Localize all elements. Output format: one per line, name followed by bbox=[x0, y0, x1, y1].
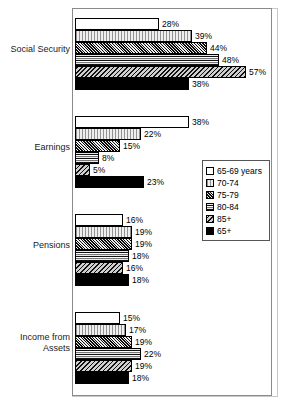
bar-value-1-2: 15% bbox=[123, 141, 140, 151]
bar-value-1-4: 5% bbox=[93, 165, 105, 175]
bar-0-4 bbox=[75, 66, 246, 78]
bar-value-2-0: 16% bbox=[126, 215, 143, 225]
bar-2-2 bbox=[75, 238, 132, 250]
legend-item-80-84: 80-84 bbox=[206, 201, 266, 212]
bar-1-0 bbox=[75, 116, 189, 128]
legend-label-4: 85+ bbox=[217, 214, 231, 224]
bar-1-5 bbox=[75, 176, 144, 188]
bar-value-2-5: 18% bbox=[132, 275, 149, 285]
legend-label-2: 75-79 bbox=[217, 190, 239, 200]
bar-1-1 bbox=[75, 128, 141, 140]
legend-swatch-icon-4 bbox=[206, 215, 214, 223]
bar-0-1 bbox=[75, 30, 192, 42]
bar-1-3 bbox=[75, 152, 99, 164]
bar-0-5 bbox=[75, 78, 189, 90]
bar-value-1-1: 22% bbox=[144, 129, 161, 139]
bar-1-4 bbox=[75, 164, 90, 176]
legend-swatch-icon-5 bbox=[206, 227, 214, 235]
bar-value-2-3: 18% bbox=[132, 251, 149, 261]
legend-label-0: 65-69 years bbox=[217, 166, 262, 176]
legend-swatch-icon-1 bbox=[206, 179, 214, 187]
bar-value-1-0: 38% bbox=[192, 117, 209, 127]
bar-value-0-4: 57% bbox=[249, 67, 266, 77]
bar-value-3-2: 19% bbox=[135, 337, 152, 347]
bar-value-2-2: 19% bbox=[135, 239, 152, 249]
bar-1-2 bbox=[75, 140, 120, 152]
bar-2-0 bbox=[75, 214, 123, 226]
bar-value-3-0: 15% bbox=[123, 313, 140, 323]
bar-3-4 bbox=[75, 360, 132, 372]
bar-0-2 bbox=[75, 42, 207, 54]
bar-0-0 bbox=[75, 18, 159, 30]
bar-value-3-1: 17% bbox=[129, 325, 146, 335]
bar-value-3-5: 18% bbox=[132, 373, 149, 383]
category-label-0: Social Security bbox=[0, 44, 70, 55]
legend-swatch-icon-2 bbox=[206, 191, 214, 199]
bar-3-5 bbox=[75, 372, 129, 384]
legend-item-85-plus: 85+ bbox=[206, 213, 266, 224]
legend-label-5: 65+ bbox=[217, 226, 231, 236]
bar-value-0-5: 38% bbox=[192, 79, 209, 89]
bar-2-4 bbox=[75, 262, 123, 274]
bar-3-2 bbox=[75, 336, 132, 348]
chart-legend: 65-69 years 70-74 75-79 80-84 85+ 65+ bbox=[202, 160, 270, 241]
bar-2-5 bbox=[75, 274, 129, 286]
bar-2-3 bbox=[75, 250, 129, 262]
bar-value-1-3: 8% bbox=[102, 153, 114, 163]
category-label-2: Pensions bbox=[0, 240, 70, 251]
legend-item-65-plus: 65+ bbox=[206, 225, 266, 236]
legend-item-65-69-years: 65-69 years bbox=[206, 165, 266, 176]
category-label-1: Earnings bbox=[0, 142, 70, 153]
legend-label-3: 80-84 bbox=[217, 202, 239, 212]
bar-3-0 bbox=[75, 312, 120, 324]
bar-value-2-4: 16% bbox=[126, 263, 143, 273]
bar-3-3 bbox=[75, 348, 141, 360]
bar-value-0-3: 48% bbox=[222, 55, 239, 65]
bar-0-3 bbox=[75, 54, 219, 66]
bar-2-1 bbox=[75, 226, 132, 238]
legend-item-70-74: 70-74 bbox=[206, 177, 266, 188]
legend-swatch-icon-3 bbox=[206, 203, 214, 211]
legend-item-75-79: 75-79 bbox=[206, 189, 266, 200]
chart-container: Social Security 28% 39% 44% 48% 57% bbox=[0, 0, 289, 409]
category-label-3: Income from Assets bbox=[0, 332, 70, 354]
bar-value-0-2: 44% bbox=[210, 43, 227, 53]
bar-value-3-4: 19% bbox=[135, 361, 152, 371]
legend-swatch-icon-0 bbox=[206, 167, 214, 175]
bar-3-1 bbox=[75, 324, 126, 336]
legend-label-1: 70-74 bbox=[217, 178, 239, 188]
bar-value-0-1: 39% bbox=[195, 31, 212, 41]
bar-value-1-5: 23% bbox=[147, 177, 164, 187]
bar-value-2-1: 19% bbox=[135, 227, 152, 237]
bar-value-0-0: 28% bbox=[162, 19, 179, 29]
bar-value-3-3: 22% bbox=[144, 349, 161, 359]
